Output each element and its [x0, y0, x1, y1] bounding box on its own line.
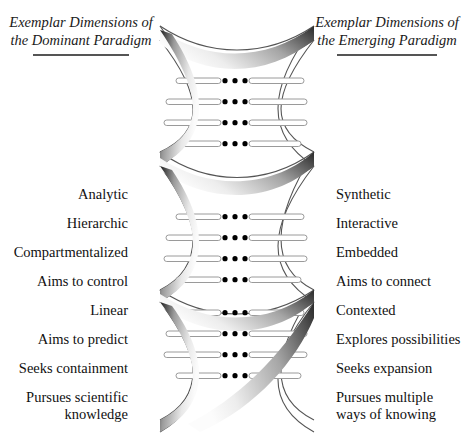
rung-row	[176, 277, 301, 283]
dna-double-helix-icon	[148, 0, 323, 439]
list-item: Explores possibilities	[336, 331, 467, 360]
label-text: Explores possibilities	[336, 331, 467, 348]
header-dominant-underline	[33, 54, 129, 56]
header-emerging-line1: Exemplar	[315, 14, 371, 30]
label-text-second-line: knowledge	[0, 406, 128, 423]
list-item: Seeks containment	[0, 360, 128, 389]
header-dominant-line4: Paradigm	[93, 32, 151, 48]
helix-ribbon-group	[160, 26, 314, 432]
label-text: Hierarchic	[0, 215, 128, 232]
emerging-paradigm-label-list: Synthetic Interactive Embedded Aims to c…	[330, 186, 467, 427]
label-text: Compartmentalized	[0, 244, 128, 261]
list-item: Synthetic	[336, 186, 467, 215]
list-item: Aims to control	[0, 273, 128, 302]
label-text: Pursues multiple	[336, 389, 467, 406]
label-text: Embedded	[336, 244, 467, 261]
label-text: Seeks containment	[0, 360, 128, 377]
header-emerging-line3: the Emerging	[317, 32, 395, 48]
list-item: Hierarchic	[0, 215, 128, 244]
rung-row	[176, 141, 301, 147]
list-item: Aims to predict	[0, 331, 128, 360]
list-item: Linear	[0, 302, 128, 331]
label-text: Analytic	[0, 186, 128, 203]
header-dominant-paradigm: Exemplar Dimensions of the Dominant Para…	[6, 14, 156, 56]
dominant-paradigm-label-list: Analytic Hierarchic Compartmentalized Ai…	[0, 186, 146, 427]
label-text: Aims to predict	[0, 331, 128, 348]
rung-row	[164, 120, 307, 126]
label-text: Interactive	[336, 215, 467, 232]
label-text: Aims to control	[0, 273, 128, 290]
header-emerging-line4: Paradigm	[399, 32, 457, 48]
header-dominant-line3: the Dominant	[11, 32, 90, 48]
list-item: Embedded	[336, 244, 467, 273]
label-text: Pursues scientific	[0, 389, 128, 406]
rung-row	[164, 256, 307, 262]
label-text: Aims to connect	[336, 273, 467, 290]
list-item: Compartmentalized	[0, 244, 128, 273]
label-text: Synthetic	[336, 186, 467, 203]
header-emerging-paradigm: Exemplar Dimensions of the Emerging Para…	[312, 14, 462, 56]
header-dominant-line2: Dimensions of	[69, 14, 152, 30]
label-text: Seeks expansion	[336, 360, 467, 377]
list-item: Pursues scientific knowledge	[0, 389, 128, 427]
list-item: Aims to connect	[336, 273, 467, 302]
header-emerging-underline	[337, 54, 437, 56]
list-item: Seeks expansion	[336, 360, 467, 389]
header-dominant-line1: Exemplar	[9, 14, 65, 30]
label-text-second-line: ways of knowing	[336, 406, 467, 423]
label-text: Contexted	[336, 302, 467, 319]
rung-row	[166, 235, 307, 241]
list-item: Pursues multiple ways of knowing	[336, 389, 467, 427]
helix-outline-strands	[160, 26, 314, 432]
list-item: Interactive	[336, 215, 467, 244]
list-item: Contexted	[336, 302, 467, 331]
label-text: Linear	[0, 302, 128, 319]
rung-row	[166, 99, 307, 105]
list-item: Analytic	[0, 186, 128, 215]
header-emerging-line2: Dimensions of	[375, 14, 458, 30]
